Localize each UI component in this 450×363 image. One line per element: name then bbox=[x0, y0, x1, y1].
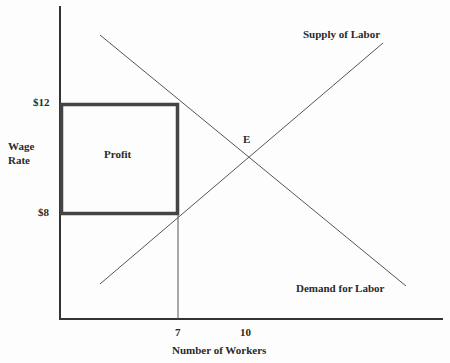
y-axis-label-line1: Wage bbox=[8, 140, 34, 153]
diagram-canvas bbox=[0, 0, 450, 363]
demand-curve bbox=[100, 35, 406, 286]
x-tick-10: 10 bbox=[240, 326, 251, 339]
supply-label: Supply of Labor bbox=[303, 28, 380, 41]
demand-label: Demand for Labor bbox=[296, 282, 384, 295]
labor-market-diagram: Supply of Labor Demand for Labor E Profi… bbox=[0, 0, 450, 363]
y-tick-12: $12 bbox=[33, 96, 50, 109]
x-tick-7: 7 bbox=[175, 326, 181, 339]
profit-label: Profit bbox=[104, 148, 131, 161]
x-axis-label: Number of Workers bbox=[172, 344, 266, 357]
y-tick-8: $8 bbox=[38, 206, 49, 219]
y-axis-label-line2: Rate bbox=[8, 154, 30, 167]
equilibrium-label: E bbox=[243, 133, 250, 146]
supply-curve bbox=[100, 43, 383, 284]
